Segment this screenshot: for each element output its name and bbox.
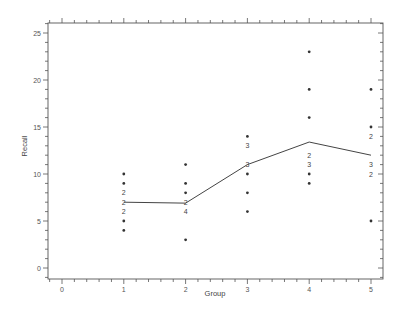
data-point-count: 2 — [369, 171, 373, 178]
y-tick-label: 15 — [33, 124, 41, 131]
x-axis-label: Group — [205, 289, 226, 298]
data-point-count: 3 — [245, 161, 249, 168]
data-point — [308, 88, 311, 91]
data-point-count: 2 — [184, 199, 188, 206]
data-point — [122, 220, 125, 223]
data-point — [246, 173, 249, 176]
data-point — [246, 191, 249, 194]
data-point — [184, 191, 187, 194]
data-point — [122, 173, 125, 176]
y-tick-label: 0 — [37, 265, 41, 272]
x-tick-label: 3 — [245, 286, 249, 293]
plot-frame — [48, 23, 383, 279]
y-tick-label: 20 — [33, 77, 41, 84]
data-point — [184, 182, 187, 185]
data-point — [122, 182, 125, 185]
y-tick-label: 5 — [37, 218, 41, 225]
data-point — [122, 229, 125, 232]
scatter-chart: 012345 0510152025 222243323232 Group Rec… — [0, 0, 403, 311]
data-point — [308, 116, 311, 119]
data-point-count: 3 — [307, 161, 311, 168]
y-tick-label: 10 — [33, 171, 41, 178]
data-point — [246, 210, 249, 213]
data-point — [184, 163, 187, 166]
data-point-count: 2 — [369, 133, 373, 140]
data-point — [246, 135, 249, 138]
y-tick-label: 25 — [33, 30, 41, 37]
data-point — [308, 50, 311, 53]
data-point-count: 2 — [122, 199, 126, 206]
x-tick-label: 5 — [369, 286, 373, 293]
data-point — [308, 173, 311, 176]
data-point — [308, 182, 311, 185]
data-point — [370, 88, 373, 91]
y-axis-ticks — [43, 24, 383, 278]
data-point-count: 2 — [122, 189, 126, 196]
data-point-count: 3 — [245, 142, 249, 149]
x-tick-label: 4 — [307, 286, 311, 293]
x-tick-label: 0 — [60, 286, 64, 293]
x-axis-ticks — [50, 18, 371, 284]
x-tick-label: 2 — [184, 286, 188, 293]
data-point-count: 3 — [369, 161, 373, 168]
data-point-count: 4 — [184, 208, 188, 215]
x-tick-label: 1 — [122, 286, 126, 293]
y-axis-tick-labels: 0510152025 — [33, 30, 41, 272]
data-point-count: 2 — [307, 152, 311, 159]
data-point — [370, 126, 373, 129]
data-point — [184, 238, 187, 241]
data-point — [370, 220, 373, 223]
data-points: 222243323232 — [122, 50, 373, 241]
y-axis-label: Recall — [20, 135, 29, 156]
data-point-count: 2 — [122, 208, 126, 215]
